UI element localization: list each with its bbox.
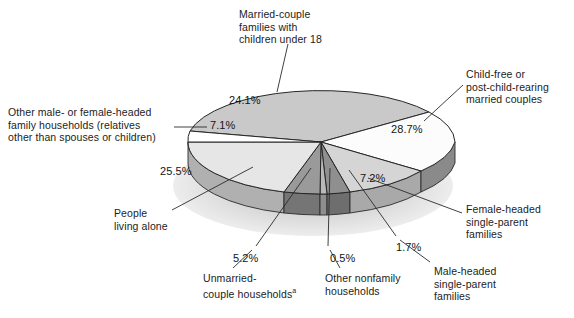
value-other-nonfamily: 0.5% <box>330 252 355 264</box>
slice-side-unmarried-couple <box>284 192 320 215</box>
slice-side-male-headed <box>327 192 350 215</box>
callout-people-living-alone: People living alone <box>114 207 168 232</box>
callout-married-couple-families: Married-couple families with children un… <box>239 8 322 46</box>
value-people-living-alone: 25.5% <box>160 165 192 177</box>
value-child-free: 28.7% <box>391 123 423 135</box>
value-married-couple-families: 24.1% <box>229 94 261 106</box>
value-unmarried-couple: 5.2% <box>233 252 258 264</box>
leader-married-couple-families <box>277 44 288 92</box>
slice-side-other-nonfamily <box>320 194 327 215</box>
callout-unmarried-couple: Unmarried- couple householdsa <box>203 272 296 300</box>
value-other-family-households: 7.1% <box>210 119 235 131</box>
pie-chart-figure: Other male- or female-headed family hous… <box>0 0 574 318</box>
footnote-marker: a <box>292 287 296 294</box>
value-female-headed: 7.2% <box>360 172 385 184</box>
callout-other-family-households: Other male- or female-headed family hous… <box>8 106 156 144</box>
callout-male-headed: Male-headed single-parent families <box>434 265 496 303</box>
value-male-headed: 1.7% <box>396 241 421 253</box>
callout-child-free: Child-free or post-child-rearing married… <box>466 68 549 106</box>
leader-child-free <box>424 85 463 121</box>
callout-unmarried-couple-text: Unmarried- couple households <box>203 272 292 299</box>
callout-other-nonfamily: Other nonfamily households <box>325 272 401 297</box>
callout-female-headed: Female-headed single-parent families <box>466 203 541 241</box>
